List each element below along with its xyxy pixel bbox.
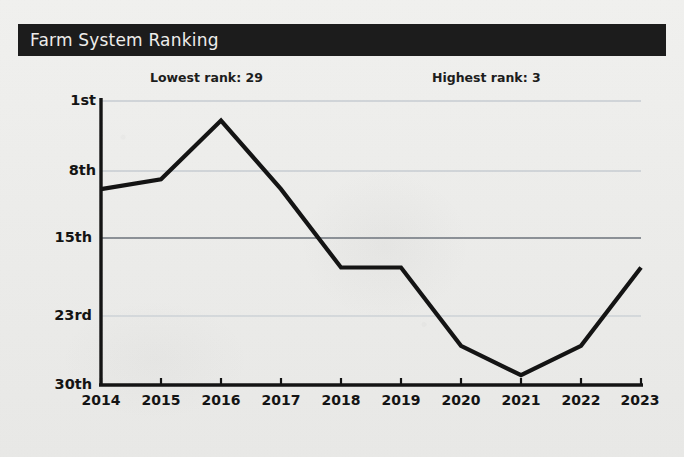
- x-tick-label-2018: 2018: [318, 392, 364, 408]
- x-tick-label-2022: 2022: [558, 392, 604, 408]
- x-tick-label-2015: 2015: [138, 392, 184, 408]
- axes: [99, 98, 643, 385]
- x-tick-label-2023: 2023: [617, 392, 663, 408]
- y-tick-label-23rd: 23rd: [40, 307, 92, 323]
- x-tick-label-2021: 2021: [498, 392, 544, 408]
- y-tick-label-1st: 1st: [44, 92, 96, 108]
- x-tick-label-2016: 2016: [198, 392, 244, 408]
- x-tick-label-2020: 2020: [438, 392, 484, 408]
- ranking-line-chart: [0, 0, 684, 457]
- ranking-line-series: [101, 121, 641, 376]
- x-tick-label-2017: 2017: [258, 392, 304, 408]
- x-tick-label-2014: 2014: [78, 392, 124, 408]
- gridlines: [101, 101, 641, 316]
- y-tick-label-30th: 30th: [40, 376, 92, 392]
- farm-system-ranking-card: Farm System Ranking Lowest rank: 29 High…: [0, 0, 684, 457]
- y-tick-label-15th: 15th: [40, 229, 92, 245]
- y-tick-label-8th: 8th: [44, 162, 96, 178]
- x-tick-label-2019: 2019: [378, 392, 424, 408]
